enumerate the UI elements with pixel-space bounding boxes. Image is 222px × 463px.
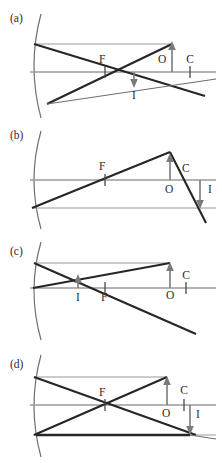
ray-parallel-reflected-through-focus — [34, 377, 196, 435]
object-label: O — [158, 53, 166, 65]
image-arrow-head — [130, 79, 138, 88]
focal-point-label: F — [99, 160, 105, 172]
panel-c-canvas: (c) F C O I — [0, 234, 222, 346]
image-label: I — [76, 291, 80, 303]
panel-b: (b) F C O I — [0, 117, 222, 235]
ray-through-vertex — [33, 263, 170, 288]
focal-point-label: F — [99, 53, 105, 65]
center-of-curvature-label: C — [182, 269, 190, 281]
focal-point-label: F — [99, 386, 105, 398]
panel-c: (c) F C O I — [0, 234, 222, 346]
object-label: O — [166, 289, 174, 301]
center-of-curvature-label: C — [180, 384, 188, 396]
focal-point-label: F — [101, 291, 107, 303]
panel-a: (a) F C O I — [0, 0, 222, 120]
panel-label-d: (d) — [10, 358, 24, 371]
panel-d-canvas: (d) F C O I — [0, 346, 222, 463]
ray-extension — [190, 435, 216, 439]
image-label: I — [208, 183, 212, 195]
center-of-curvature-label: C — [186, 53, 194, 65]
panel-label-a: (a) — [10, 12, 23, 25]
panel-a-canvas: (a) F C O I — [0, 0, 222, 120]
concave-mirror-arc — [34, 14, 41, 118]
object-label: O — [165, 183, 173, 195]
concave-mirror-arc — [34, 242, 41, 340]
ray-diagram-figure: (a) F C O I (b) — [0, 0, 222, 463]
panel-b-canvas: (b) F C O I — [0, 117, 222, 235]
panel-label-b: (b) — [10, 129, 24, 142]
center-of-curvature-label: C — [182, 162, 190, 174]
panel-label-c: (c) — [10, 245, 23, 258]
panel-d: (d) F C O I — [0, 346, 222, 463]
image-label: I — [196, 408, 200, 420]
image-label: I — [132, 89, 136, 101]
concave-mirror-arc — [34, 355, 41, 457]
object-label: O — [162, 407, 170, 419]
